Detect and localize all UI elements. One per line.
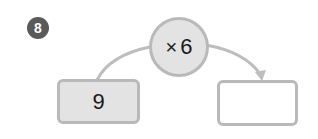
input-box: 9 [57, 79, 140, 124]
operator-circle: × 6 [149, 17, 209, 77]
input-value: 9 [92, 89, 104, 115]
operand-value: 6 [180, 34, 192, 60]
multiply-symbol: × [166, 36, 178, 59]
arc-out [206, 45, 260, 74]
answer-box[interactable] [217, 80, 298, 126]
arc-in [97, 47, 150, 80]
